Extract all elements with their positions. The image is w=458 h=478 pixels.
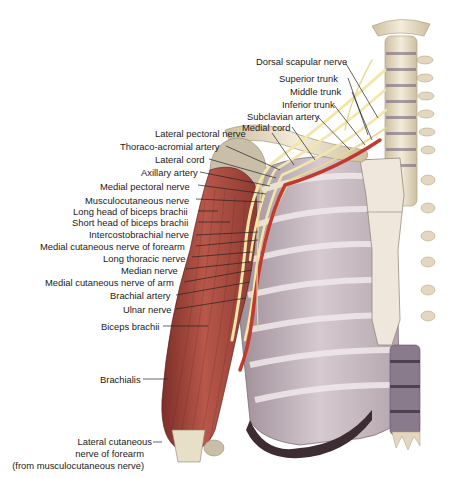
label-median-nerve: Median nerve bbox=[121, 265, 178, 276]
label-long-thoracic-nerve: Long thoracic nerve bbox=[103, 253, 185, 264]
label-medial-cord: Medial cord bbox=[242, 122, 290, 133]
label-ulnar-nerve: Ulnar nerve bbox=[123, 304, 171, 315]
label-lateral-cutaneous-nerve-forearm-line3: (from musculocutaneous nerve) bbox=[2, 460, 144, 471]
label-lateral-cord: Lateral cord bbox=[155, 154, 205, 165]
label-medial-cutaneous-nerve-forearm: Medial cutaneous nerve of forearm bbox=[40, 241, 185, 252]
label-subclavian-artery: Subclavian artery bbox=[247, 111, 319, 122]
label-axillary-artery: Axillary artery bbox=[141, 167, 198, 178]
label-dorsal-scapular-nerve: Dorsal scapular nerve bbox=[256, 56, 347, 67]
label-brachialis: Brachialis bbox=[100, 374, 141, 385]
label-inferior-trunk: Inferior trunk bbox=[282, 99, 335, 110]
anatomy-illustration bbox=[0, 0, 458, 478]
label-musculocutaneous-nerve: Musculocutaneous nerve bbox=[85, 195, 189, 206]
anatomy-figure: Dorsal scapular nerve Superior trunk Mid… bbox=[0, 0, 458, 478]
label-lateral-pectoral-nerve: Lateral pectoral nerve bbox=[155, 128, 246, 139]
label-long-head-biceps: Long head of biceps brachii bbox=[73, 206, 188, 217]
label-biceps-brachii: Biceps brachii bbox=[101, 321, 159, 332]
label-middle-trunk: Middle trunk bbox=[290, 86, 341, 97]
rib-cage bbox=[240, 157, 420, 458]
label-medial-cutaneous-nerve-arm: Medial cutaneous nerve of arm bbox=[45, 277, 174, 288]
label-brachial-artery: Brachial artery bbox=[110, 290, 170, 301]
label-superior-trunk: Superior trunk bbox=[279, 73, 338, 84]
label-lateral-cutaneous-nerve-forearm-line2: nerve of forearm bbox=[20, 448, 144, 459]
label-intercostobrachial-nerve: Intercostobrachial nerve bbox=[89, 229, 189, 240]
label-short-head-biceps: Short head of biceps brachii bbox=[72, 217, 188, 228]
label-lateral-cutaneous-nerve-forearm-line1: Lateral cutaneous bbox=[20, 436, 152, 447]
label-thoraco-acromial-artery: Thoraco-acromial artery bbox=[120, 141, 220, 152]
label-medial-pectoral-nerve: Medial pectoral nerve bbox=[100, 181, 190, 192]
